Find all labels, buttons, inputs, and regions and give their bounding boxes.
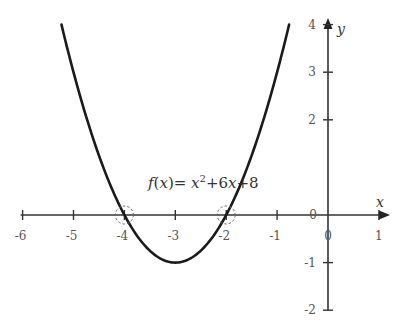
x-tick-label: 0 [324,229,332,243]
x-tick-label: -1 [269,229,281,243]
y-axis-arrow-icon [324,18,333,29]
function-graph: -6-5-4-3-2-1010432-1-2 x y f(x)= x2+6x+8 [0,0,399,333]
formula-eq: = [174,174,191,192]
y-tick-label: -2 [304,303,316,317]
axes [21,18,390,310]
function-label: f(x)= x2+6x+8 [147,173,259,192]
x-tick-label: -3 [167,229,179,243]
x-tick-label: -5 [66,229,78,243]
y-tick-label: 4 [308,18,316,32]
formula-plus6: +6 [206,174,228,192]
x-tick-label: 1 [375,229,383,243]
tick-marks [23,25,379,311]
x-tick-label: -4 [117,229,129,243]
parabola-curve [61,25,289,263]
x-axis-label: x [376,194,384,210]
y-tick-label: 2 [308,113,316,127]
origin-label: 0 [309,208,317,222]
formula-plus8: +8 [237,174,259,192]
y-tick-label: -1 [304,256,316,270]
x-tick-label: -6 [15,229,27,243]
x-tick-label: -2 [218,229,230,243]
y-axis-label: y [336,21,346,37]
y-tick-label: 3 [308,65,316,79]
x-axis-arrow-icon [379,211,390,220]
